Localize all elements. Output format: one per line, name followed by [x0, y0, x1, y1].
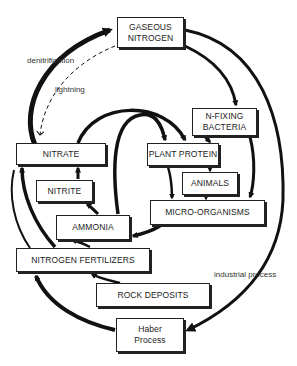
- arrow-fertilizer-to-ammonia: [72, 240, 90, 247]
- node-n-fixing-line2: BACTERIA: [203, 122, 246, 133]
- arrow-bacteria-to-plant: [205, 137, 210, 142]
- node-nitrite: NITRITE: [36, 180, 93, 202]
- arrow-to-n-fixing: [185, 46, 236, 105]
- node-haber-line1: Haber: [134, 324, 165, 335]
- node-animals-label: ANIMALS: [191, 178, 229, 189]
- node-gaseous-nitrogen-line1: GASEOUS: [128, 22, 174, 33]
- node-haber-line2: Process: [134, 335, 165, 346]
- node-n-fixing-bacteria: N-FIXING BACTERIA: [192, 108, 257, 136]
- node-animals: ANIMALS: [182, 172, 238, 195]
- arrow-nitrate-to-plant: [78, 110, 185, 143]
- label-denitrification: denitrification: [27, 56, 74, 65]
- node-nitrogen-fertilizers: NITROGEN FERTILIZERS: [16, 248, 150, 272]
- arrow-micro-to-ammonia: [133, 226, 160, 236]
- node-ammonia: AMMONIA: [56, 215, 130, 240]
- node-haber-process: Haber Process: [116, 318, 184, 352]
- arrow-bacteria-to-micro: [250, 137, 254, 197]
- node-gaseous-nitrogen: GASEOUS NITROGEN: [117, 17, 184, 48]
- node-nitrogen-fertilizers-label: NITROGEN FERTILIZERS: [31, 255, 134, 266]
- node-nitrate-label: NITRATE: [43, 149, 79, 160]
- node-nitrate: NITRATE: [16, 143, 106, 165]
- label-industrial-process: industrial process: [214, 270, 276, 279]
- node-plant-protein-label: PLANT PROTEIN: [149, 149, 218, 160]
- arrow-rock-to-fertilizer: [92, 274, 120, 283]
- arrow-plant-to-micro: [168, 167, 172, 198]
- arrow-outer-left: [12, 170, 30, 248]
- node-micro-organisms-label: MICRO-ORGANISMS: [165, 207, 250, 218]
- node-plant-protein: PLANT PROTEIN: [147, 143, 219, 166]
- node-rock-deposits-label: ROCK DEPOSITS: [117, 290, 188, 301]
- node-gaseous-nitrogen-line2: NITROGEN: [128, 33, 174, 44]
- label-lightning: lightning: [55, 85, 85, 94]
- arrow-ammonia-to-nitrite: [87, 204, 98, 214]
- node-micro-organisms: MICRO-ORGANISMS: [150, 200, 265, 225]
- node-n-fixing-line1: N-FIXING: [203, 111, 246, 122]
- node-nitrite-label: NITRITE: [48, 186, 82, 197]
- node-ammonia-label: AMMONIA: [72, 222, 113, 233]
- node-rock-deposits: ROCK DEPOSITS: [96, 283, 210, 307]
